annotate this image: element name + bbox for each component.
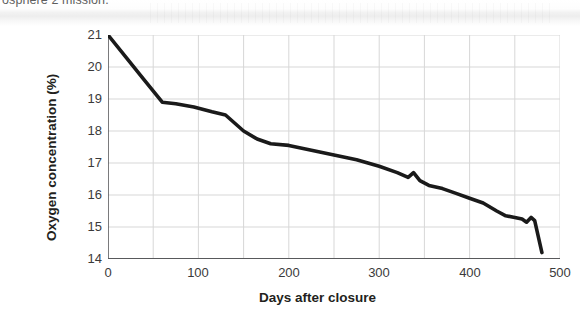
- cropped-caption-text: osphere 2 mission.: [2, 0, 109, 9]
- y-tick-label: 14: [76, 251, 102, 266]
- x-tick-label: 400: [450, 265, 490, 280]
- y-tick-label: 21: [76, 27, 102, 42]
- y-tick-label: 15: [76, 219, 102, 234]
- data-series-line: [108, 35, 542, 253]
- gridlines: [108, 35, 560, 259]
- y-axis-title: Oxygen concentration (%): [44, 74, 59, 241]
- y-tick-label: 18: [76, 123, 102, 138]
- x-tick-label: 0: [88, 265, 128, 280]
- y-tick-label: 20: [76, 59, 102, 74]
- x-axis-title: Days after closure: [0, 290, 580, 305]
- y-tick-label: 16: [76, 187, 102, 202]
- plot-svg: [108, 35, 560, 259]
- x-tick-label: 500: [540, 265, 580, 280]
- plot-area: [108, 35, 560, 259]
- scan-band: osphere 2 mission.: [0, 0, 580, 26]
- x-tick-label: 300: [359, 265, 399, 280]
- y-tick-label: 19: [76, 91, 102, 106]
- y-tick-label: 17: [76, 155, 102, 170]
- x-tick-label: 100: [178, 265, 218, 280]
- scan-noise: [150, 3, 550, 23]
- x-tick-label: 200: [269, 265, 309, 280]
- oxygen-concentration-line-chart: 21 20 19 18 17 16 15 14 0 100 200 300 40…: [0, 26, 580, 310]
